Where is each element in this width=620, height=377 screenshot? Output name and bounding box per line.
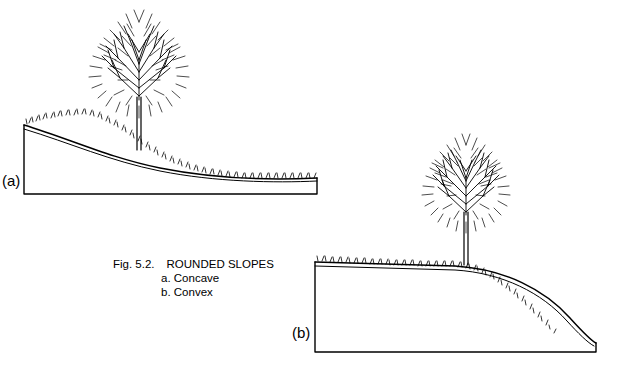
figure-caption: Fig. 5.2.ROUNDED SLOPES a. Concave b. Co… — [113, 257, 274, 299]
panel-b-block-outline — [315, 262, 596, 352]
panel-label-b: (b) — [292, 324, 310, 341]
panel-a-tree — [89, 10, 189, 150]
panel-a-concave-slope — [24, 10, 317, 194]
figure-number: Fig. 5.2. — [113, 257, 155, 271]
rounded-slopes-diagram — [0, 0, 620, 377]
panel-a-grass-tufts — [26, 109, 316, 178]
panel-a-ground-profile — [24, 125, 317, 179]
figure-caption-item-b: b. Convex — [161, 285, 274, 299]
panel-b-convex-slope — [315, 134, 596, 352]
panel-b-tree-trunk — [464, 212, 468, 265]
panel-a-tree-branches — [102, 26, 176, 100]
panel-b-soil-line — [315, 266, 594, 346]
panel-a-tree-trunk — [137, 97, 141, 150]
panel-b-tree-branches — [433, 150, 499, 215]
panel-a-soil-line — [24, 129, 317, 182]
figure-page: (a) (b) Fig. 5.2.ROUNDED SLOPES a. Conca… — [0, 0, 620, 377]
panel-b-ground-profile — [315, 262, 596, 343]
panel-label-a: (a) — [2, 172, 20, 189]
figure-title: ROUNDED SLOPES — [167, 257, 274, 271]
panel-b-tree — [422, 134, 510, 265]
figure-caption-item-a: a. Concave — [161, 271, 274, 285]
